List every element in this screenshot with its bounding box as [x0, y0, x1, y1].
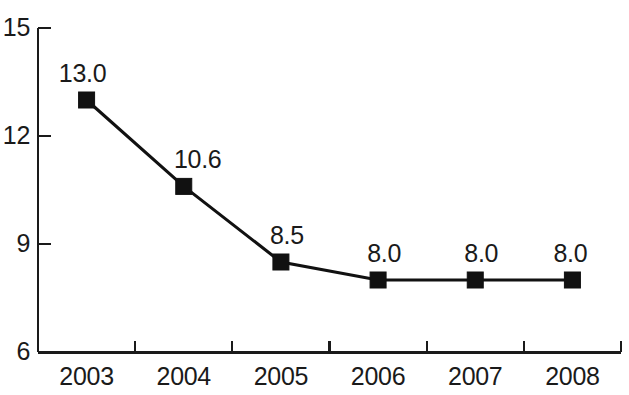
x-tick-label-2005: 2005	[231, 364, 331, 389]
data-point-marker-2004	[176, 178, 192, 194]
x-tick-label-2003: 2003	[37, 364, 137, 389]
data-point-label-2004: 10.6	[158, 147, 238, 172]
x-tick-label-2006: 2006	[328, 364, 428, 389]
y-tick-label-15: 15	[3, 15, 30, 40]
data-point-label-2006: 8.0	[344, 241, 424, 266]
data-point-marker-2006	[370, 272, 386, 288]
x-tick-label-2007: 2007	[425, 364, 525, 389]
data-point-label-2005: 8.5	[247, 223, 327, 248]
x-tick-label-2004: 2004	[134, 364, 234, 389]
data-point-label-2007: 8.0	[441, 241, 521, 266]
y-tick-label-9: 9	[16, 231, 30, 256]
data-point-marker-2003	[79, 92, 95, 108]
data-point-marker-2005	[273, 254, 289, 270]
data-point-label-2008: 8.0	[530, 241, 610, 266]
x-tick-marks	[38, 341, 621, 352]
y-tick-label-12: 12	[3, 123, 30, 148]
data-point-label-2003: 13.0	[43, 61, 123, 86]
line-chart: 691215 200320042005200620072008 13.010.6…	[0, 0, 629, 395]
y-tick-label-6: 6	[16, 339, 30, 364]
x-tick-label-2008: 2008	[522, 364, 622, 389]
data-point-marker-2007	[467, 272, 483, 288]
data-point-marker-2008	[564, 272, 580, 288]
axes-group	[38, 28, 621, 353]
